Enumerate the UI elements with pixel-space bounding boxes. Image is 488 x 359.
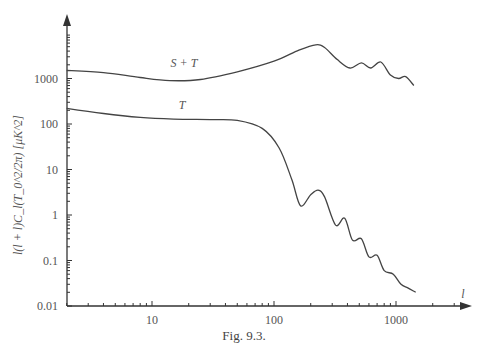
- y-axis-arrow-icon: [63, 14, 71, 26]
- x-tick-label-10: 10: [146, 313, 158, 327]
- y-tick-label-1: 1: [52, 208, 58, 222]
- cmb-power-spectrum-chart: 1000 100 10 1 0.1 0.01 10 100 1000 l l(l…: [0, 0, 488, 359]
- y-tick-label-0.01: 0.01: [37, 299, 58, 313]
- y-tick-label-0.1: 0.1: [43, 254, 58, 268]
- y-tick-label-10: 10: [46, 163, 58, 177]
- x-tick-label-1000: 1000: [384, 313, 408, 327]
- x-ticks: [67, 301, 454, 306]
- y-axis-title: l(l + l)C_l(T_0^2/2π) [μK^2]: [11, 115, 25, 255]
- y-tick-label-1000: 1000: [34, 72, 58, 86]
- y-ticks: [67, 35, 72, 306]
- series-s-plus-t-line: [67, 45, 414, 86]
- y-tick-label-100: 100: [40, 117, 58, 131]
- x-tick-label-100: 100: [265, 313, 283, 327]
- series-label-s-plus-t: S + T: [171, 56, 199, 70]
- series-t-line: [67, 108, 416, 292]
- series-label-t: T: [179, 98, 187, 112]
- x-axis-title: l: [461, 287, 465, 301]
- x-axis-arrow-icon: [460, 302, 472, 310]
- figure-caption: Fig. 9.3.: [0, 328, 488, 344]
